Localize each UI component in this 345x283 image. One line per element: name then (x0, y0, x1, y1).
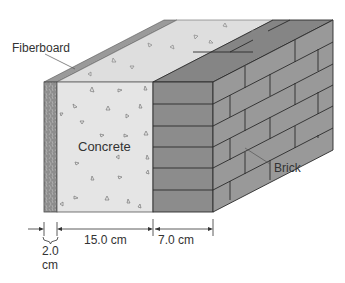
brick-label: Brick (274, 161, 302, 175)
fiberboard-thickness-unit: cm (42, 258, 58, 272)
composite-wall-diagram: Fiberboard Concrete Brick 2.0 cm 15.0 cm… (0, 0, 345, 283)
concrete-thickness: 15.0 cm (84, 233, 127, 247)
fiberboard-layer (44, 82, 57, 212)
brick-thickness: 7.0 cm (158, 233, 194, 247)
fiberboard-callout: Fiberboard (12, 41, 75, 69)
fiberboard-thickness-value: 2.0 (42, 244, 59, 258)
fiberboard-label: Fiberboard (12, 41, 70, 55)
concrete-label: Concrete (78, 139, 131, 154)
